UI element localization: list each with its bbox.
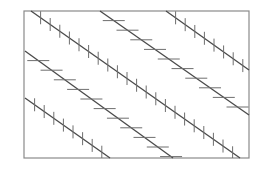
diagonal-line — [100, 11, 249, 115]
hatched-line-d — [100, 11, 249, 115]
hatched-line-c — [25, 98, 110, 158]
diagonal-line — [25, 51, 173, 158]
diagonal-line — [31, 11, 240, 158]
hatched-line-a — [31, 11, 240, 158]
hatched-line-b — [25, 51, 182, 158]
hatched-diagonal-lines-diagram — [0, 0, 267, 179]
hatched-line-e — [166, 11, 249, 72]
diagonal-lines-group — [25, 11, 249, 158]
diagonal-line — [166, 11, 249, 70]
diagonal-line — [25, 98, 110, 158]
